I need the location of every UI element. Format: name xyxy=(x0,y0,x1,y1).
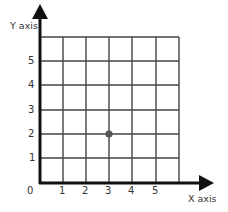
y-tick-2: 2 xyxy=(28,129,34,139)
y-tick-4: 4 xyxy=(28,80,34,90)
y-tick-3: 3 xyxy=(28,105,34,115)
x-tick-2: 2 xyxy=(82,186,88,196)
grid-lines xyxy=(40,37,179,183)
y-tick-5: 5 xyxy=(28,56,34,66)
x-axis-arrow-icon xyxy=(199,175,214,191)
x-tick-4: 4 xyxy=(128,186,134,196)
x-tick-3: 3 xyxy=(105,186,111,196)
y-tick-1: 1 xyxy=(29,153,35,163)
y-axis-label: Y axis xyxy=(10,21,38,31)
x-tick-1: 1 xyxy=(59,186,65,196)
origin-label: 0 xyxy=(27,186,33,196)
y-axis-arrow-icon xyxy=(32,4,48,19)
x-tick-5: 5 xyxy=(152,186,158,196)
x-axis-label: X axis xyxy=(188,194,217,204)
plotted-point xyxy=(105,130,112,137)
